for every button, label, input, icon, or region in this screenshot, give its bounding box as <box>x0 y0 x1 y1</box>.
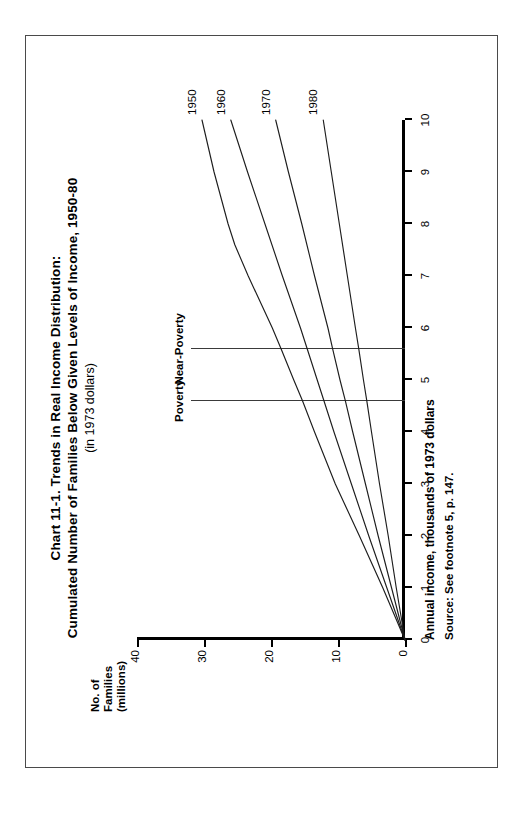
plot-area: 012345678910 010203040 PovertyNear-Pover… <box>137 120 405 640</box>
x-tick-label: 5 <box>419 368 431 392</box>
series-label-1950: 1950 <box>186 89 198 115</box>
series-line-1960 <box>231 120 405 640</box>
x-tick <box>405 275 412 277</box>
y-axis-title: No. of Families (millions) <box>89 622 128 712</box>
source-note: Source: See footnote 5, p. 147. <box>443 473 455 640</box>
y-axis-title-line-2: Families <box>102 622 115 712</box>
y-tick <box>204 640 206 647</box>
x-tick-label: 8 <box>419 212 431 236</box>
y-axis-title-units: (millions) <box>115 622 128 712</box>
x-tick <box>405 379 412 381</box>
x-tick-label: 7 <box>419 264 431 288</box>
series-label-1960: 1960 <box>215 89 227 115</box>
series-line-1970 <box>276 120 405 640</box>
series-label-1970: 1970 <box>260 89 272 115</box>
rotated-figure: Chart 11-1. Trends in Real Income Distri… <box>45 58 475 758</box>
y-tick <box>405 640 407 647</box>
y-tick-label: 10 <box>330 650 342 674</box>
x-tick <box>405 535 412 537</box>
chart-title-line-2: Cumulated Number of Families Below Given… <box>64 58 81 758</box>
y-tick-label: 30 <box>196 650 208 674</box>
x-tick <box>405 587 412 589</box>
series-label-1980: 1980 <box>307 89 319 115</box>
x-tick <box>405 223 412 225</box>
series-line-1980 <box>323 120 405 640</box>
y-axis-title-line-1: No. of <box>89 622 102 712</box>
figure-content: Chart 11-1. Trends in Real Income Distri… <box>45 58 475 758</box>
x-tick <box>405 327 412 329</box>
y-tick-label: 40 <box>129 650 141 674</box>
y-tick <box>137 640 139 647</box>
y-tick-label: 20 <box>263 650 275 674</box>
series-curves <box>137 120 405 640</box>
x-tick <box>405 431 412 433</box>
scanned-page: Chart 11-1. Trends in Real Income Distri… <box>0 0 520 816</box>
x-axis-title: Annual income, thousands of 1973 dollars <box>423 399 437 640</box>
x-tick <box>405 119 412 121</box>
x-tick-label: 6 <box>419 316 431 340</box>
y-tick-label: 0 <box>397 650 409 674</box>
y-tick <box>271 640 273 647</box>
x-tick-label: 10 <box>419 108 431 132</box>
series-line-1950 <box>202 120 405 640</box>
x-tick <box>405 171 412 173</box>
y-tick <box>338 640 340 647</box>
x-tick-label: 9 <box>419 160 431 184</box>
x-tick <box>405 483 412 485</box>
chart-title-line-1: Chart 11-1. Trends in Real Income Distri… <box>47 58 64 758</box>
